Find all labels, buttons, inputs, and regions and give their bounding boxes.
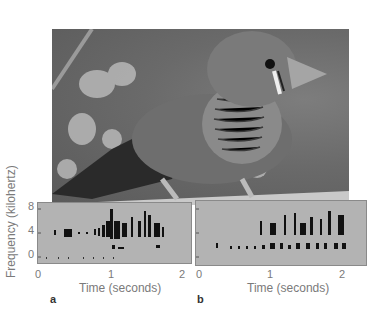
y-tick-8: 8 [22,200,34,212]
panel-label-a: a [50,293,56,305]
x-tick-a-1: 1 [108,268,114,280]
x-tick-a-2: 2 [179,268,185,280]
spectrogram-a [37,202,192,264]
y-tick-4: 4 [22,224,34,236]
x-tick-b-2: 2 [339,268,345,280]
y-axis-label: Frequency (kilohertz) [4,158,20,278]
spectrogram-b [195,200,367,266]
panel-label-b: b [197,293,204,305]
bird-photo [52,29,349,205]
x-tick-a-0: 0 [35,268,41,280]
y-tick-0: 0 [22,248,34,260]
x-label-a: Time (seconds) [79,281,161,295]
x-label-b: Time (seconds) [247,281,329,295]
x-tick-b-1: 1 [267,268,273,280]
x-tick-b-0: 0 [196,268,202,280]
